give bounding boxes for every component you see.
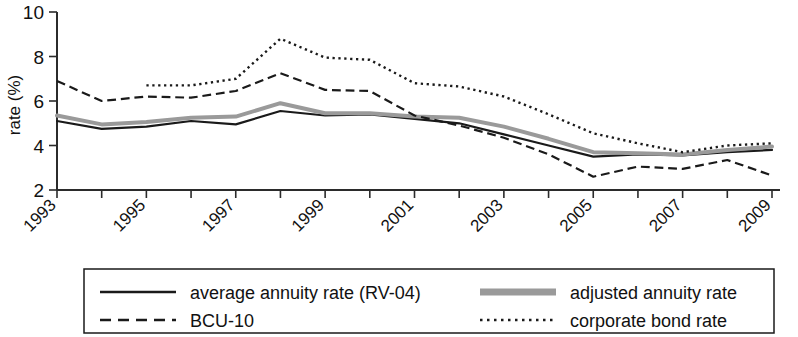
- chart-canvas: rate (%) 246810 199319951997199920012003…: [0, 0, 798, 337]
- y-tick-label: 4: [33, 136, 44, 157]
- x-tick-label: 2009: [735, 195, 775, 235]
- x-tick-label: 2007: [645, 195, 685, 235]
- x-tick-label: 2005: [556, 195, 596, 235]
- y-tick-label: 10: [23, 2, 44, 23]
- x-tick-label: 2001: [377, 195, 417, 235]
- y-tick-label: 8: [33, 47, 44, 68]
- x-tick-label: 1995: [109, 195, 149, 235]
- legend-label: corporate bond rate: [570, 311, 727, 331]
- x-axis-ticks: 199319951997199920012003200520072009: [20, 190, 775, 236]
- line-chart-figure: rate (%) 246810 199319951997199920012003…: [0, 0, 798, 337]
- y-tick-label: 2: [33, 180, 44, 201]
- x-tick-label: 1993: [20, 195, 60, 235]
- x-tick-label: 2003: [467, 195, 507, 235]
- series-line-1: [57, 103, 772, 154]
- legend-label: adjusted annuity rate: [570, 283, 737, 303]
- x-tick-label: 1999: [288, 195, 328, 235]
- x-tick-label: 1997: [198, 195, 238, 235]
- y-axis-title: rate (%): [5, 75, 24, 135]
- y-tick-label: 6: [33, 91, 44, 112]
- y-axis-ticks: 246810: [23, 2, 57, 201]
- legend-label: BCU-10: [190, 311, 254, 331]
- series-line-3: [146, 39, 772, 153]
- legend-label: average annuity rate (RV-04): [190, 283, 421, 303]
- data-series-group: [57, 39, 772, 177]
